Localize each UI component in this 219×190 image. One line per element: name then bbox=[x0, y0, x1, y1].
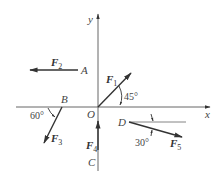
f5-angle-tick-top bbox=[151, 114, 153, 121]
f3-label: F3 bbox=[50, 132, 62, 147]
diagram-svg: x y O F1 45° F2 A B F3 60° F4 C D F5 bbox=[0, 0, 219, 190]
point-c-label: C bbox=[88, 156, 96, 168]
f3-angle-arc bbox=[48, 108, 55, 117]
f3-angle-label: 60° bbox=[30, 110, 44, 121]
x-axis-label: x bbox=[204, 108, 210, 120]
force-f2: F2 A bbox=[30, 56, 88, 76]
point-a-label: A bbox=[80, 64, 88, 76]
f5-angle-tick-bottom bbox=[151, 130, 152, 136]
f5-angle-label: 30° bbox=[135, 137, 149, 148]
f5-label: F5 bbox=[169, 137, 181, 152]
force-f3: B F3 60° bbox=[30, 93, 68, 147]
point-d-label: D bbox=[117, 116, 126, 128]
f1-angle-label: 45° bbox=[124, 91, 138, 102]
force-f4: F4 C bbox=[85, 121, 98, 168]
f4-label: F4 bbox=[85, 139, 97, 154]
force-diagram: x y O F1 45° F2 A B F3 60° F4 C D F5 bbox=[0, 0, 219, 190]
f1-angle-arc bbox=[119, 86, 122, 105]
y-axis-label: y bbox=[87, 13, 93, 25]
origin-label: O bbox=[87, 108, 95, 120]
point-b-label: B bbox=[61, 93, 68, 105]
force-f1: F1 45° bbox=[98, 73, 138, 107]
f2-label: F2 bbox=[50, 56, 62, 71]
force-f5: D F5 30° bbox=[117, 114, 186, 152]
f1-label: F1 bbox=[105, 73, 117, 88]
x-axis: x bbox=[16, 107, 210, 120]
